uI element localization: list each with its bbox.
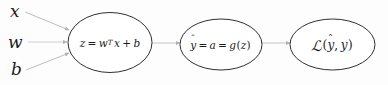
input-label-b: b bbox=[11, 61, 22, 78]
hat-accent-icon: ˆ bbox=[191, 35, 196, 44]
node-linear-equals: = bbox=[85, 37, 98, 49]
node-activation-equals-2: = bbox=[216, 39, 229, 51]
node-linear-w: w bbox=[99, 37, 108, 49]
loss-symbol: ℒ bbox=[311, 37, 322, 54]
input-label-w: w bbox=[8, 34, 23, 51]
node-linear-b: b bbox=[133, 37, 140, 49]
input-label-x: x bbox=[10, 3, 20, 20]
node-activation-g: g bbox=[229, 39, 236, 51]
node-loss-label: ℒ ( ˆ y , y ) bbox=[290, 36, 375, 54]
node-linear-label: z = w T x + b bbox=[68, 35, 152, 51]
edge-b-to-linear bbox=[26, 53, 69, 70]
node-linear-plus: + bbox=[120, 37, 133, 49]
edge-x-to-linear bbox=[25, 12, 69, 30]
node-loss-y: y bbox=[341, 38, 348, 52]
node-loss-rparen: ) bbox=[348, 38, 354, 52]
node-activation-rparen: ) bbox=[246, 39, 251, 51]
node-activation-label: ˆ y = a = g ( z ) bbox=[180, 37, 262, 53]
hat-accent-icon: ˆ bbox=[328, 34, 333, 44]
node-activation-yhat: ˆ y bbox=[190, 39, 196, 51]
node-linear-x: x bbox=[113, 37, 121, 49]
node-activation-equals-1: = bbox=[196, 39, 209, 51]
computation-graph-diagram: x w b z = w T x + b ˆ y = a = g ( z ) ℒ … bbox=[0, 0, 388, 85]
node-loss-yhat: ˆ y bbox=[327, 38, 334, 52]
